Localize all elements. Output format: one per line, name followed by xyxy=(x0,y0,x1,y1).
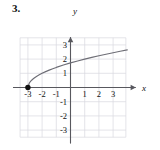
x-tick-label: -2 xyxy=(39,89,46,99)
graph-figure: -3-2-1123 321-1-2-3 x y xyxy=(0,0,160,150)
y-tick-label: 3 xyxy=(63,40,67,50)
y-tick-label: -1 xyxy=(60,97,67,107)
x-tick-label: -1 xyxy=(53,89,60,99)
coordinate-plane-svg: -3-2-1123 321-1-2-3 x y xyxy=(0,0,160,150)
y-axis-label: y xyxy=(72,6,77,16)
y-tick-label: -3 xyxy=(60,125,67,135)
x-tick-label: 1 xyxy=(83,89,87,99)
x-axis-label: x xyxy=(141,83,146,93)
x-tick-labels: -3-2-1123 xyxy=(24,89,115,99)
x-tick-label: 3 xyxy=(111,89,115,99)
x-axis-arrowhead xyxy=(131,85,136,91)
figure-page: 3. -3-2-1123 321-1-2-3 x y xyxy=(0,0,160,150)
x-tick-label: 2 xyxy=(97,89,101,99)
y-tick-label: -2 xyxy=(60,111,67,121)
x-tick-label: -3 xyxy=(24,89,31,99)
y-tick-label: 1 xyxy=(63,68,67,78)
y-tick-label: 2 xyxy=(63,54,67,64)
function-curve xyxy=(28,50,127,88)
